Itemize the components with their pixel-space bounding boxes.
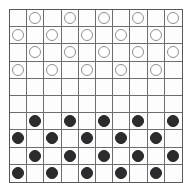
white-draughts-piece[interactable] — [167, 12, 179, 24]
white-draughts-piece[interactable] — [12, 29, 24, 41]
board-square-r6-c9[interactable] — [148, 96, 165, 113]
board-square-r2-c10[interactable] — [165, 27, 182, 44]
board-square-r4-c7[interactable] — [113, 62, 130, 79]
board-square-r5-c7[interactable] — [113, 79, 130, 96]
board-square-r1-c3[interactable] — [44, 10, 61, 27]
black-draughts-piece[interactable] — [64, 150, 76, 162]
board-square-r2-c7[interactable] — [113, 27, 130, 44]
white-draughts-piece[interactable] — [29, 12, 41, 24]
board-square-r9-c6[interactable] — [96, 148, 113, 165]
board-square-r8-c10[interactable] — [165, 130, 182, 147]
board-square-r1-c8[interactable] — [130, 10, 147, 27]
board-square-r3-c8[interactable] — [130, 44, 147, 61]
white-draughts-piece[interactable] — [64, 46, 76, 58]
board-square-r10-c10[interactable] — [165, 165, 182, 182]
board-square-r3-c4[interactable] — [62, 44, 79, 61]
board-square-r4-c5[interactable] — [79, 62, 96, 79]
board-square-r1-c4[interactable] — [62, 10, 79, 27]
board-square-r8-c3[interactable] — [44, 130, 61, 147]
board-square-r8-c7[interactable] — [113, 130, 130, 147]
board-square-r6-c5[interactable] — [79, 96, 96, 113]
board-square-r4-c3[interactable] — [44, 62, 61, 79]
board-square-r2-c1[interactable] — [10, 27, 27, 44]
board-square-r9-c8[interactable] — [130, 148, 147, 165]
board-square-r7-c6[interactable] — [96, 113, 113, 130]
white-draughts-piece[interactable] — [132, 12, 144, 24]
white-draughts-piece[interactable] — [115, 64, 127, 76]
white-draughts-piece[interactable] — [132, 46, 144, 58]
black-draughts-piece[interactable] — [167, 150, 179, 162]
board-square-r7-c2[interactable] — [27, 113, 44, 130]
board-square-r3-c3[interactable] — [44, 44, 61, 61]
white-draughts-piece[interactable] — [46, 64, 58, 76]
board-square-r7-c10[interactable] — [165, 113, 182, 130]
board-square-r6-c7[interactable] — [113, 96, 130, 113]
board-square-r5-c2[interactable] — [27, 79, 44, 96]
draughts-board[interactable] — [9, 9, 183, 183]
board-square-r5-c5[interactable] — [79, 79, 96, 96]
white-draughts-piece[interactable] — [46, 29, 58, 41]
board-square-r1-c6[interactable] — [96, 10, 113, 27]
black-draughts-piece[interactable] — [81, 167, 93, 179]
black-draughts-piece[interactable] — [98, 150, 110, 162]
board-square-r6-c1[interactable] — [10, 96, 27, 113]
board-square-r1-c7[interactable] — [113, 10, 130, 27]
board-square-r3-c2[interactable] — [27, 44, 44, 61]
black-draughts-piece[interactable] — [132, 115, 144, 127]
board-square-r7-c7[interactable] — [113, 113, 130, 130]
black-draughts-piece[interactable] — [29, 150, 41, 162]
board-square-r5-c8[interactable] — [130, 79, 147, 96]
board-square-r10-c2[interactable] — [27, 165, 44, 182]
white-draughts-piece[interactable] — [150, 64, 162, 76]
board-square-r6-c2[interactable] — [27, 96, 44, 113]
board-square-r9-c9[interactable] — [148, 148, 165, 165]
board-square-r7-c8[interactable] — [130, 113, 147, 130]
board-square-r9-c3[interactable] — [44, 148, 61, 165]
board-square-r1-c2[interactable] — [27, 10, 44, 27]
white-draughts-piece[interactable] — [12, 64, 24, 76]
black-draughts-piece[interactable] — [29, 115, 41, 127]
board-square-r10-c1[interactable] — [10, 165, 27, 182]
board-square-r3-c7[interactable] — [113, 44, 130, 61]
board-square-r10-c6[interactable] — [96, 165, 113, 182]
board-square-r3-c6[interactable] — [96, 44, 113, 61]
board-square-r8-c8[interactable] — [130, 130, 147, 147]
board-square-r9-c1[interactable] — [10, 148, 27, 165]
board-square-r1-c10[interactable] — [165, 10, 182, 27]
board-square-r10-c7[interactable] — [113, 165, 130, 182]
board-square-r4-c6[interactable] — [96, 62, 113, 79]
white-draughts-piece[interactable] — [29, 46, 41, 58]
black-draughts-piece[interactable] — [81, 132, 93, 144]
board-square-r9-c2[interactable] — [27, 148, 44, 165]
board-square-r5-c10[interactable] — [165, 79, 182, 96]
board-square-r10-c4[interactable] — [62, 165, 79, 182]
board-square-r2-c3[interactable] — [44, 27, 61, 44]
board-square-r4-c2[interactable] — [27, 62, 44, 79]
black-draughts-piece[interactable] — [12, 167, 24, 179]
board-square-r2-c6[interactable] — [96, 27, 113, 44]
board-square-r2-c4[interactable] — [62, 27, 79, 44]
board-square-r3-c9[interactable] — [148, 44, 165, 61]
board-square-r1-c5[interactable] — [79, 10, 96, 27]
board-square-r8-c5[interactable] — [79, 130, 96, 147]
board-square-r2-c9[interactable] — [148, 27, 165, 44]
board-square-r6-c8[interactable] — [130, 96, 147, 113]
white-draughts-piece[interactable] — [64, 12, 76, 24]
board-square-r3-c1[interactable] — [10, 44, 27, 61]
white-draughts-piece[interactable] — [98, 12, 110, 24]
board-square-r2-c5[interactable] — [79, 27, 96, 44]
board-square-r10-c5[interactable] — [79, 165, 96, 182]
board-square-r9-c7[interactable] — [113, 148, 130, 165]
white-draughts-piece[interactable] — [150, 29, 162, 41]
board-square-r7-c9[interactable] — [148, 113, 165, 130]
white-draughts-piece[interactable] — [81, 64, 93, 76]
board-square-r9-c10[interactable] — [165, 148, 182, 165]
white-draughts-piece[interactable] — [98, 46, 110, 58]
board-square-r7-c1[interactable] — [10, 113, 27, 130]
black-draughts-piece[interactable] — [98, 115, 110, 127]
board-square-r10-c8[interactable] — [130, 165, 147, 182]
board-square-r8-c4[interactable] — [62, 130, 79, 147]
board-square-r10-c9[interactable] — [148, 165, 165, 182]
board-square-r1-c9[interactable] — [148, 10, 165, 27]
board-square-r8-c6[interactable] — [96, 130, 113, 147]
